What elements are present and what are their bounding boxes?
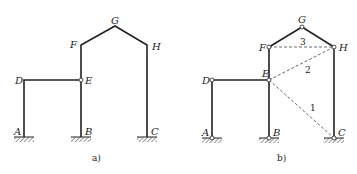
support-a xyxy=(14,137,34,142)
hinge-e xyxy=(79,78,83,82)
node-label-d: D xyxy=(201,75,210,86)
link-label-2: 2 xyxy=(305,65,311,75)
member-a-d-e xyxy=(24,80,79,137)
node-label-c: C xyxy=(151,126,159,137)
hinge-d xyxy=(210,78,214,82)
node-label-e: E xyxy=(261,68,270,79)
node-label-b: B xyxy=(272,127,280,138)
node-label-a: A xyxy=(201,127,209,138)
node-label-b: B xyxy=(84,126,92,137)
node-label-h: H xyxy=(338,42,348,53)
support-b xyxy=(71,137,91,142)
hinge-a xyxy=(210,136,214,140)
hinge-h xyxy=(332,45,336,49)
hinge-g xyxy=(300,25,304,29)
caption-a: a) xyxy=(92,153,101,163)
node-label-g: G xyxy=(111,15,119,26)
node-label-f: F xyxy=(69,39,78,50)
link-label-3: 3 xyxy=(300,37,306,47)
support-c xyxy=(137,137,157,142)
hinge-c xyxy=(332,136,336,140)
diagram-canvas: A B C D E F G H a) xyxy=(0,0,357,174)
node-label-c: C xyxy=(338,127,346,138)
link-2-e-h xyxy=(269,47,334,80)
node-label-d: D xyxy=(14,75,23,86)
figure-b: A B C D E F G H 3 2 1 b) xyxy=(201,14,348,163)
figure-a: A B C D E F G H a) xyxy=(13,15,161,163)
node-label-g: G xyxy=(298,14,306,25)
node-label-a: A xyxy=(13,126,21,137)
caption-b: b) xyxy=(277,153,286,163)
node-label-h: H xyxy=(151,41,161,52)
link-label-1: 1 xyxy=(310,103,316,113)
node-label-e: E xyxy=(84,75,93,86)
hinge-b xyxy=(267,136,271,140)
hinge-f xyxy=(267,45,271,49)
node-label-f: F xyxy=(258,42,267,53)
